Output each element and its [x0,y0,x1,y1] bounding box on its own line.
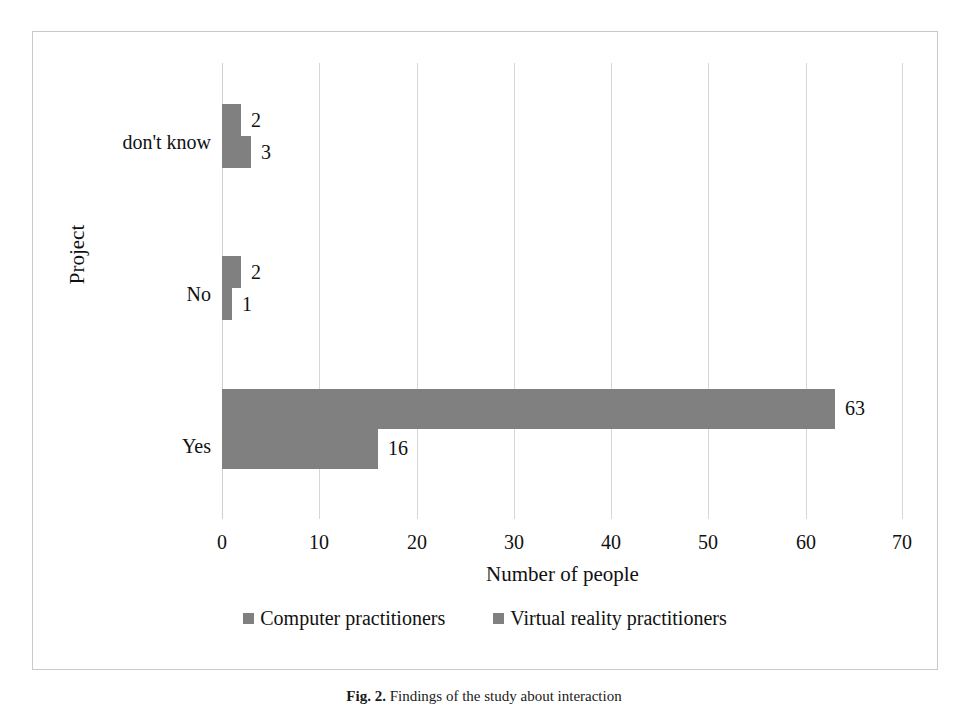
legend-swatch-icon [493,613,504,624]
legend-item-computer-practitioners[interactable]: Computer practitioners [243,607,445,630]
x-axis-tick-label: 10 [309,532,329,552]
legend-item-virtual-reality-practitioners[interactable]: Virtual reality practitioners [493,607,727,630]
bar-label-yes-virtual-reality-practitioners: 16 [388,438,408,458]
bar-dont-know-computer-practitioners[interactable] [222,104,241,136]
figure-caption: Fig. 2. Findings of the study about inte… [0,688,968,705]
bar-label-no-virtual-reality-practitioners: 1 [242,294,252,314]
x-axis-tick-label: 20 [407,532,427,552]
x-axis-tick-label: 70 [892,532,912,552]
bar-group-yes: 63 16 [222,367,903,519]
bar-label-dont-know-virtual-reality-practitioners: 3 [261,142,271,162]
y-axis-tick-label: don't know [122,132,211,152]
figure-caption-text: Findings of the study about interaction [390,688,622,704]
x-axis-tick-label: 30 [504,532,524,552]
y-axis-tick-label: Yes [182,436,211,456]
bar-dont-know-virtual-reality-practitioners[interactable] [222,136,251,168]
figure-caption-number: Fig. 2. [346,688,386,704]
y-axis-tick-labels: don't know No Yes [33,63,211,519]
bar-yes-virtual-reality-practitioners[interactable] [222,429,378,469]
bar-yes-computer-practitioners[interactable] [222,389,835,429]
bar-label-no-computer-practitioners: 2 [251,262,261,282]
bar-label-dont-know-computer-practitioners: 2 [251,110,261,130]
bar-group-dont-know: 2 3 [222,63,903,215]
bar-no-virtual-reality-practitioners[interactable] [222,288,232,320]
plot-area: 2 3 2 1 63 16 [222,63,903,519]
legend-label: Computer practitioners [260,607,445,630]
bar-label-yes-computer-practitioners: 63 [845,398,865,418]
figure-frame: Project don't know No Yes 2 3 2 1 [32,31,938,670]
x-axis-tick-labels: 0 10 20 30 40 50 60 70 [222,532,903,558]
x-axis-tick-label: 60 [796,532,816,552]
y-axis-tick-label: No [187,284,211,304]
bar-no-computer-practitioners[interactable] [222,256,241,288]
legend-swatch-icon [243,613,254,624]
x-axis-tick-label: 50 [698,532,718,552]
bar-group-no: 2 1 [222,215,903,367]
x-axis-tick-label: 40 [601,532,621,552]
legend: Computer practitioners Virtual reality p… [33,607,937,630]
legend-label: Virtual reality practitioners [510,607,727,630]
x-axis-title: Number of people [222,562,903,587]
x-axis-tick-label: 0 [217,532,227,552]
